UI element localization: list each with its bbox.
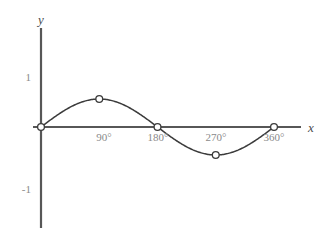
y-tick-label-1: 1 xyxy=(8,72,31,83)
point-marker-0deg xyxy=(38,124,45,131)
point-marker-270deg xyxy=(212,152,219,159)
y-axis-label: y xyxy=(38,13,44,26)
y-tick-label-neg1: -1 xyxy=(4,184,31,195)
point-marker-360deg xyxy=(271,124,278,131)
sine-curve-chart: y x 1 -1 90° 180° 270° 360° xyxy=(0,0,331,237)
x-tick-label-180: 180° xyxy=(138,132,178,143)
chart-canvas xyxy=(0,0,331,237)
point-marker-180deg xyxy=(154,124,161,131)
x-tick-label-360: 360° xyxy=(254,132,294,143)
x-tick-label-270: 270° xyxy=(196,132,236,143)
x-axis-label: x xyxy=(308,121,314,134)
point-marker-90deg xyxy=(96,96,103,103)
x-tick-label-90: 90° xyxy=(84,132,124,143)
